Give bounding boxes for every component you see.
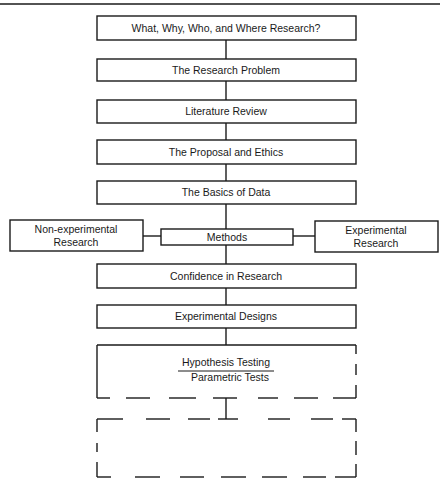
branch-label-line2: Research — [54, 236, 99, 248]
step-label: Confidence in Research — [170, 270, 282, 282]
branch-label-line2: Research — [354, 237, 399, 249]
step-label: Methods — [207, 231, 247, 243]
step-label: The Research Problem — [172, 64, 280, 76]
current-section-title: Hypothesis Testing — [182, 356, 270, 368]
step-label: What, Why, Who, and Where Research? — [132, 22, 321, 34]
branch-label-line1: Non-experimental — [35, 223, 118, 235]
step-confidence-in-research: Confidence in Research — [97, 264, 356, 288]
branch-experimental: Experimental Research — [315, 221, 438, 252]
step-basics-of-data: The Basics of Data — [97, 181, 356, 204]
step-what-why-who-where: What, Why, Who, and Where Research? — [97, 16, 356, 40]
step-methods: Methods — [161, 229, 293, 245]
branch-non-experimental: Non-experimental Research — [10, 220, 143, 251]
step-experimental-designs: Experimental Designs — [97, 305, 356, 328]
step-literature-review: Literature Review — [97, 100, 356, 123]
current-section-box: Hypothesis Testing Parametric Tests — [97, 345, 356, 398]
step-label: The Proposal and Ethics — [169, 146, 283, 158]
step-label: Literature Review — [185, 105, 267, 117]
step-label: Experimental Designs — [175, 310, 277, 322]
next-section-box — [97, 419, 356, 477]
current-section-subtitle: Parametric Tests — [191, 371, 269, 383]
step-proposal-ethics: The Proposal and Ethics — [97, 140, 356, 164]
step-research-problem: The Research Problem — [97, 59, 356, 81]
flowchart-diagram: What, Why, Who, and Where Research? The … — [0, 0, 444, 482]
step-label: The Basics of Data — [182, 186, 271, 198]
branch-label-line1: Experimental — [345, 224, 406, 236]
